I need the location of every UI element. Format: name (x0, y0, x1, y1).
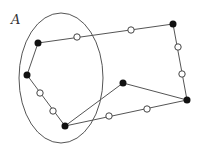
edge-P1-P4 (38, 24, 173, 43)
filled-node-P4 (170, 21, 177, 28)
filled-node-P1 (35, 40, 42, 47)
filled-node-P6 (184, 97, 191, 104)
open-node (74, 34, 80, 40)
edge-P6-P5 (123, 83, 187, 100)
filled-node-P2 (24, 72, 31, 79)
open-node (37, 90, 43, 96)
graph-diagram: A (0, 0, 201, 153)
filled-node-P5 (120, 80, 127, 87)
open-node (50, 108, 56, 114)
edge-P4-P6 (173, 24, 187, 100)
graph-svg (0, 0, 201, 153)
open-node (175, 44, 181, 50)
region-ellipse (19, 13, 103, 143)
filled-node-P3 (62, 123, 69, 130)
edge-P2-P1 (27, 43, 38, 75)
open-node (144, 106, 150, 112)
open-node (106, 113, 112, 119)
edge-P3-P2 (27, 75, 65, 126)
region-label: A (11, 12, 20, 27)
open-node (128, 27, 134, 33)
open-node (179, 71, 185, 77)
